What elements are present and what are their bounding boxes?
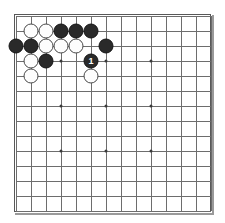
- grid-line-vertical: [211, 16, 212, 211]
- stone-black[interactable]: [84, 24, 99, 39]
- stone-white[interactable]: [39, 39, 54, 54]
- go-board[interactable]: 1: [14, 14, 211, 212]
- star-point: [150, 60, 153, 63]
- grid-line-horizontal: [16, 196, 211, 197]
- stone-black[interactable]: [69, 24, 84, 39]
- stone-white[interactable]: [24, 24, 39, 39]
- star-point: [60, 60, 63, 63]
- stone-black[interactable]: [24, 39, 39, 54]
- move-number-label: 1: [85, 55, 98, 68]
- stone-marked-black[interactable]: 1: [84, 54, 99, 69]
- star-point: [60, 150, 63, 153]
- stone-white[interactable]: [69, 39, 84, 54]
- stone-white[interactable]: [84, 69, 99, 84]
- star-point: [105, 60, 108, 63]
- stone-white[interactable]: [39, 24, 54, 39]
- stone-black[interactable]: [39, 54, 54, 69]
- stone-black[interactable]: [99, 39, 114, 54]
- grid-line-vertical: [196, 16, 197, 211]
- star-point: [105, 105, 108, 108]
- grid-line-horizontal: [16, 211, 211, 212]
- grid-line-horizontal: [16, 181, 211, 182]
- stone-black[interactable]: [54, 24, 69, 39]
- stone-white[interactable]: [24, 69, 39, 84]
- star-point: [150, 105, 153, 108]
- stone-white[interactable]: [24, 54, 39, 69]
- stone-black[interactable]: [9, 39, 24, 54]
- star-point: [150, 150, 153, 153]
- star-point: [105, 150, 108, 153]
- stone-white[interactable]: [54, 39, 69, 54]
- go-diagram: 1: [0, 0, 225, 223]
- star-point: [60, 105, 63, 108]
